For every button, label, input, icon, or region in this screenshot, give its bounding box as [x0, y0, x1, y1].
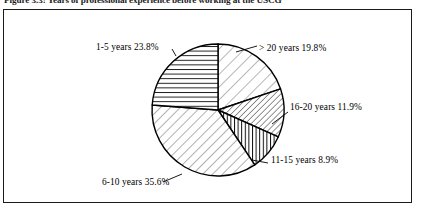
figure-container: Figure 3.3: Years of professional experi…: [0, 0, 429, 212]
leader-line-1-5: [172, 49, 176, 56]
slice-label-11-15-years: 11-15 years 8.9%: [271, 155, 338, 166]
slice-label-6-10-years: 6-10 years 35.6%: [102, 177, 169, 188]
pie-chart: [0, 0, 429, 212]
slice-label-16-20-years: 16-20 years 11.9%: [290, 102, 362, 113]
slice-label-1-5-years: 1-5 years 23.8%: [96, 42, 159, 53]
pie-slice-group: [152, 44, 284, 176]
slice-label-gt-20-years: > 20 years 19.8%: [259, 43, 326, 54]
pie-slice-1-5-years: [152, 44, 218, 110]
